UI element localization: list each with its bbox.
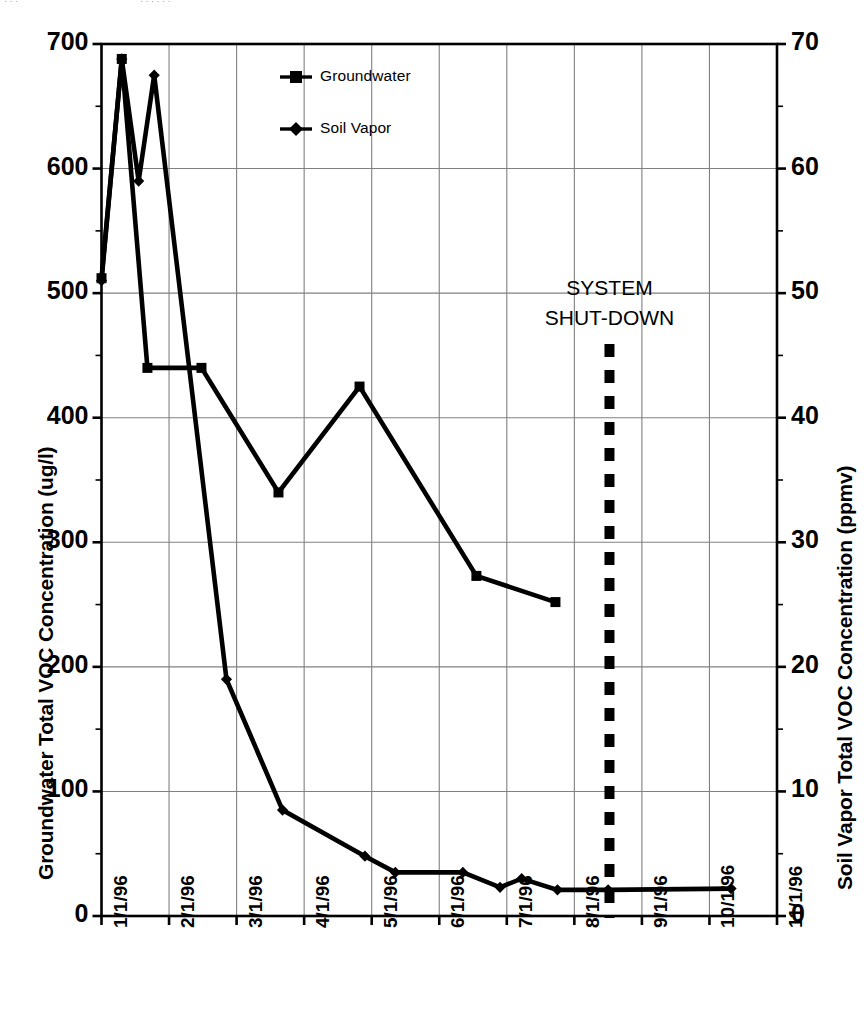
y-left-tick-label: 600 bbox=[47, 152, 89, 181]
chart-figure: · · ·· · · · · · Groundwater Total VOC C… bbox=[0, 0, 868, 1035]
x-tick-label: 4/1/96 bbox=[312, 875, 334, 928]
x-tick-label: 9/1/96 bbox=[650, 875, 672, 928]
x-tick-label: 3/1/96 bbox=[245, 875, 267, 928]
shutdown-annotation-line1: SYSTEM bbox=[499, 276, 719, 300]
y-left-tick-label: 400 bbox=[47, 401, 89, 430]
x-tick-label: 6/1/96 bbox=[447, 875, 469, 928]
y-left-tick-label: 300 bbox=[47, 525, 89, 554]
shutdown-annotation-line2: SHUT-DOWN bbox=[499, 306, 719, 330]
y-left-tick-label: 100 bbox=[47, 774, 89, 803]
x-tick-label: 1/1/96 bbox=[110, 875, 132, 928]
y-right-tick-label: 50 bbox=[791, 276, 819, 305]
x-tick-label: 8/1/96 bbox=[582, 875, 604, 928]
data-series bbox=[96, 53, 737, 895]
y-right-tick-label: 60 bbox=[791, 152, 819, 181]
x-tick-label: 5/1/96 bbox=[380, 875, 402, 928]
y-left-tick-label: 200 bbox=[47, 650, 89, 679]
legend-markers bbox=[280, 71, 312, 136]
legend-label-soil-vapor: Soil Vapor bbox=[320, 119, 391, 137]
y-right-tick-label: 20 bbox=[791, 650, 819, 679]
y-left-tick-label: 700 bbox=[47, 27, 89, 56]
x-tick-label: 7/1/96 bbox=[515, 875, 537, 928]
legend-label-groundwater: Groundwater bbox=[320, 67, 411, 85]
y-left-tick-label: 0 bbox=[75, 899, 89, 928]
y-left-tick-label: 500 bbox=[47, 276, 89, 305]
y-right-tick-label: 40 bbox=[791, 401, 819, 430]
x-tick-label: 10/1/96 bbox=[717, 865, 739, 928]
x-tick-label: 2/1/96 bbox=[177, 875, 199, 928]
y-right-tick-label: 70 bbox=[791, 27, 819, 56]
y-right-tick-label: 10 bbox=[791, 774, 819, 803]
x-tick-label: 11/1/96 bbox=[785, 866, 807, 928]
y-right-tick-label: 30 bbox=[791, 525, 819, 554]
